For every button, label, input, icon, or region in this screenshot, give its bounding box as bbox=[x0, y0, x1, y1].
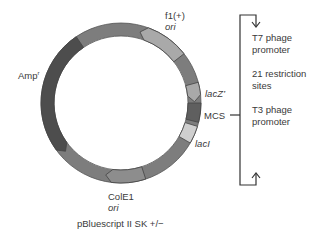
feature-ampr bbox=[41, 37, 84, 152]
t3-promoter-line1: T3 phage bbox=[252, 104, 292, 115]
ampr-text: Amp bbox=[18, 70, 38, 81]
feature-f1-ori bbox=[140, 28, 184, 62]
plasmid-ring bbox=[41, 23, 201, 183]
restriction-sites-line1: 21 restriction bbox=[252, 68, 306, 79]
mcs-label: MCS bbox=[204, 110, 225, 121]
t7-promoter-line1: T7 phage bbox=[252, 32, 292, 43]
ring-outline bbox=[54, 36, 188, 170]
t7-promoter-line2: promoter bbox=[252, 44, 290, 55]
plasmid-title: pBluescript II SK +/− bbox=[77, 218, 164, 229]
t3-promoter-line2: promoter bbox=[252, 116, 290, 127]
laci-label: lacI bbox=[195, 138, 210, 149]
ampr-label: Ampr bbox=[18, 68, 40, 81]
f1-ori-label: f1(+) bbox=[165, 10, 185, 21]
f1-ori-sub-label: ori bbox=[165, 21, 176, 32]
feature-mcs bbox=[186, 103, 201, 122]
cole1-ori-label: ori bbox=[108, 202, 119, 213]
ampr-sup: r bbox=[38, 70, 40, 76]
lacz-label: lacZ’ bbox=[205, 88, 225, 99]
cole1-label: ColE1 bbox=[108, 191, 134, 202]
restriction-sites-line2: sites bbox=[252, 80, 272, 91]
